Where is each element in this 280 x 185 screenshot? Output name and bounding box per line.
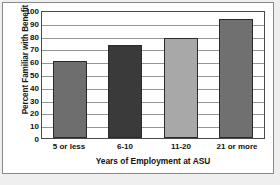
bar	[164, 38, 198, 138]
y-tick-label: 60	[30, 58, 39, 67]
y-tick-label: 70	[30, 45, 39, 54]
y-tick-label: 30	[30, 96, 39, 105]
y-tick-label: 20	[30, 109, 39, 118]
y-tick-label: 100	[26, 7, 39, 16]
x-tick-label: 5 or less	[41, 142, 97, 151]
bar-series	[42, 12, 264, 138]
bar	[219, 19, 253, 138]
x-axis-tick-labels: 5 or less6-1011-2021 or more	[41, 142, 265, 151]
y-tick-label: 40	[30, 83, 39, 92]
x-tick-label: 21 or more	[209, 142, 265, 151]
y-tick-label: 0	[35, 135, 39, 144]
y-tick-label: 90	[30, 19, 39, 28]
bar	[108, 45, 142, 138]
y-tick-label: 50	[30, 71, 39, 80]
y-tick-label: 10	[30, 122, 39, 131]
y-axis-tick-labels: 1009080706050403020100	[17, 11, 39, 139]
x-tick-label: 6-10	[97, 142, 153, 151]
bar	[53, 61, 87, 138]
chart-figure: Percent Familiar with Benefit 1009080706…	[2, 2, 274, 174]
x-tick-label: 11-20	[153, 142, 209, 151]
y-tick-label: 80	[30, 32, 39, 41]
plot-area	[41, 11, 265, 139]
x-axis-title: Years of Employment at ASU	[41, 156, 265, 166]
